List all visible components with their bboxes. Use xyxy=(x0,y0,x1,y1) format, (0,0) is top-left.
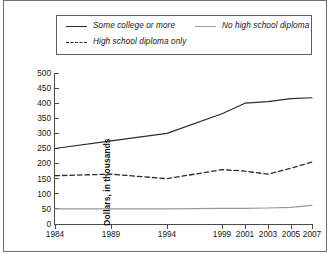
series-line xyxy=(55,162,312,179)
x-axis-tick-label: 2003 xyxy=(259,230,277,238)
plot-area: Dollars, in thousands 500450400350300250… xyxy=(54,73,312,225)
x-axis-tick-label: 2007 xyxy=(303,230,321,238)
legend-label: No high school diploma xyxy=(222,22,309,30)
chart-figure: Some college or more High school diploma… xyxy=(0,0,334,254)
y-axis-tick-label: 50 xyxy=(42,205,55,213)
solid-line-icon xyxy=(66,22,87,30)
legend-item-high-school: High school diploma only xyxy=(66,38,186,46)
legend-item-some-college: Some college or more xyxy=(66,22,175,30)
y-axis-tick-label: 150 xyxy=(37,175,55,183)
legend-label: Some college or more xyxy=(93,22,175,30)
y-axis-tick-label: 0 xyxy=(46,220,55,228)
chart-legend: Some college or more High school diploma… xyxy=(56,15,312,55)
series-lines xyxy=(55,73,312,224)
gray-line-icon xyxy=(195,22,216,30)
y-axis-tick-label: 200 xyxy=(37,159,55,167)
x-axis-tick-label: 1989 xyxy=(102,230,120,238)
y-axis-tick-label: 300 xyxy=(37,129,55,137)
series-line xyxy=(55,98,312,149)
y-axis-tick-label: 350 xyxy=(37,114,55,122)
x-axis-tick-label: 2001 xyxy=(236,230,254,238)
x-axis-tick-label: 1999 xyxy=(213,230,231,238)
series-line xyxy=(55,205,312,209)
y-axis-tick-label: 500 xyxy=(37,69,55,77)
x-axis-tick-label: 1994 xyxy=(158,230,176,238)
y-axis-tick-label: 250 xyxy=(37,144,55,152)
y-axis-tick-label: 100 xyxy=(37,190,55,198)
x-axis-tick-label: 1984 xyxy=(46,230,64,238)
y-axis-tick-label: 450 xyxy=(37,84,55,92)
y-axis-tick-label: 400 xyxy=(37,99,55,107)
x-axis-tick-label: 2005 xyxy=(282,230,300,238)
legend-item-no-diploma: No high school diploma xyxy=(195,22,309,30)
legend-label: High school diploma only xyxy=(93,38,186,46)
dashed-line-icon xyxy=(66,38,87,46)
